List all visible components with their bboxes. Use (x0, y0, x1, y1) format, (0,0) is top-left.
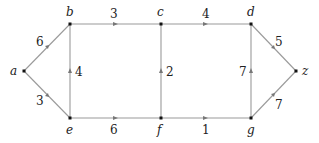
arrow-icon (249, 68, 253, 73)
node-d (250, 23, 253, 26)
weight-c-d: 4 (202, 7, 210, 21)
arrow-icon (113, 116, 118, 120)
arrow-icon (159, 68, 163, 73)
node-label-c: c (157, 5, 164, 19)
node-label-a: a (10, 64, 17, 78)
node-label-e: e (66, 123, 73, 137)
weight-g-z: 7 (275, 98, 283, 112)
node-label-z: z (301, 64, 309, 78)
arrow-icon (203, 22, 208, 26)
weight-e-f: 6 (110, 123, 118, 137)
weight-f-c: 2 (166, 65, 174, 79)
node-label-b: b (66, 5, 74, 19)
node-f (160, 117, 163, 120)
arrow-icon (113, 22, 118, 26)
node-b (69, 23, 72, 26)
arrow-icon (203, 116, 208, 120)
node-a (23, 70, 26, 73)
node-label-f: f (156, 123, 164, 137)
weight-e-b: 4 (75, 65, 83, 79)
weight-b-c: 3 (110, 7, 118, 21)
node-e (69, 117, 72, 120)
node-label-g: g (247, 123, 255, 137)
weight-g-d: 7 (239, 65, 247, 79)
weight-f-g: 1 (202, 123, 210, 137)
arrow-icon (68, 68, 72, 73)
node-label-d: d (247, 5, 255, 19)
node-z (295, 70, 298, 73)
node-g (250, 117, 253, 120)
node-c (160, 23, 163, 26)
weight-a-b: 6 (36, 35, 44, 49)
graph-diagram: a b c d e f g z 6 3 3 4 4 2 6 1 7 5 7 (0, 0, 319, 143)
weight-a-e: 3 (36, 94, 44, 108)
weight-d-z: 5 (275, 35, 283, 49)
